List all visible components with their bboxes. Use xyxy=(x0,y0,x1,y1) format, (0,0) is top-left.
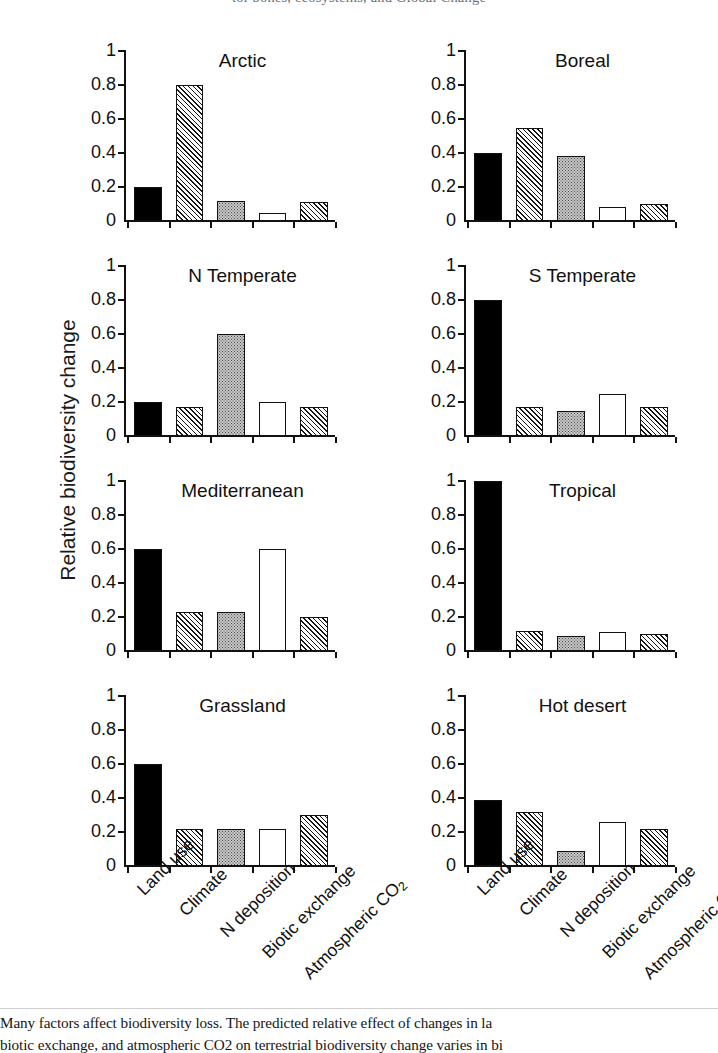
y-tick-label: 0.6 xyxy=(404,324,456,342)
x-tick-mark xyxy=(210,437,212,443)
bar xyxy=(516,407,543,436)
y-tick-label: 0.8 xyxy=(64,75,116,93)
bar xyxy=(134,764,161,866)
y-tick-label: 0.2 xyxy=(404,607,456,625)
y-tick-label: 0.2 xyxy=(64,392,116,410)
y-tick-label: 0.2 xyxy=(64,822,116,840)
y-tick-label: 0.6 xyxy=(64,754,116,772)
plot-area xyxy=(125,266,333,436)
bar xyxy=(300,407,327,436)
y-tick-label: 0.6 xyxy=(404,754,456,772)
bar xyxy=(300,202,327,221)
bar xyxy=(176,407,203,436)
plot-area xyxy=(125,51,333,221)
bar xyxy=(176,85,203,221)
y-tick-label: 0.2 xyxy=(404,822,456,840)
x-tick-mark xyxy=(592,652,594,658)
x-tick-mark xyxy=(169,437,171,443)
y-tick-label: 0.8 xyxy=(404,720,456,738)
bar xyxy=(259,213,286,222)
bar xyxy=(640,634,667,651)
y-tick-label: 0.4 xyxy=(404,788,456,806)
x-tick-mark xyxy=(252,652,254,658)
x-axis-category-labels: Land useClimateN depositionBiotic exchan… xyxy=(0,879,718,999)
y-tick-label: 1 xyxy=(404,471,456,489)
y-tick-label: 0.8 xyxy=(404,290,456,308)
x-tick-mark xyxy=(127,222,129,228)
y-tick-label: 0.4 xyxy=(404,358,456,376)
y-tick-label: 0 xyxy=(64,211,116,229)
bar xyxy=(599,207,626,221)
bar xyxy=(300,617,327,651)
y-tick-label: 0.2 xyxy=(64,607,116,625)
panel-mediterranean: 00.20.40.60.81Mediterranean xyxy=(40,454,340,669)
y-tick-label: 0.4 xyxy=(64,358,116,376)
x-tick-mark xyxy=(550,437,552,443)
figure-caption: Many factors affect biodiversity loss. T… xyxy=(0,1008,718,1053)
panel-arctic: 00.20.40.60.81Arctic xyxy=(40,24,340,239)
y-tick-label: 1 xyxy=(404,256,456,274)
plot-area xyxy=(465,266,673,436)
bar xyxy=(134,549,161,651)
bar xyxy=(217,334,244,436)
bar xyxy=(259,549,286,651)
y-tick-label: 0.6 xyxy=(64,109,116,127)
y-tick-label: 1 xyxy=(64,686,116,704)
y-tick-label: 0 xyxy=(64,856,116,874)
panel-tropical: 00.20.40.60.81Tropical xyxy=(380,454,680,669)
x-tick-mark xyxy=(550,652,552,658)
x-tick-mark xyxy=(293,222,295,228)
x-tick-mark xyxy=(509,437,511,443)
caption-line-1: Many factors affect biodiversity loss. T… xyxy=(0,1012,718,1034)
x-tick-mark xyxy=(127,437,129,443)
bar xyxy=(474,300,501,436)
panel-n-temperate: 00.20.40.60.81N Temperate xyxy=(40,239,340,454)
y-tick-label: 0 xyxy=(64,426,116,444)
x-tick-mark xyxy=(633,437,635,443)
y-tick-label: 0 xyxy=(404,856,456,874)
y-tick-label: 0.2 xyxy=(64,177,116,195)
x-tick-mark xyxy=(169,652,171,658)
clipped-header-text: tor bones, ecosystems, and Global Change xyxy=(0,0,718,14)
x-tick-mark xyxy=(252,222,254,228)
x-tick-mark xyxy=(633,222,635,228)
x-tick-mark xyxy=(210,222,212,228)
x-tick-mark xyxy=(335,222,337,228)
bar xyxy=(474,481,501,651)
x-tick-mark xyxy=(675,222,677,228)
x-tick-mark xyxy=(293,437,295,443)
plot-area xyxy=(465,51,673,221)
y-tick-label: 0.4 xyxy=(64,788,116,806)
y-tick-label: 0 xyxy=(64,641,116,659)
y-tick-label: 0.4 xyxy=(64,573,116,591)
y-tick-label: 0.8 xyxy=(64,290,116,308)
x-tick-mark xyxy=(127,652,129,658)
y-tick-label: 0 xyxy=(404,641,456,659)
bar xyxy=(557,156,584,221)
bar xyxy=(176,612,203,651)
y-tick-label: 0.8 xyxy=(404,75,456,93)
bar xyxy=(134,402,161,436)
plot-area xyxy=(125,696,333,866)
bar xyxy=(217,829,244,866)
y-tick-label: 0.6 xyxy=(404,539,456,557)
bar xyxy=(557,411,584,437)
bar xyxy=(640,407,667,436)
y-tick-label: 0.6 xyxy=(64,324,116,342)
caption-line-2: biotic exchange, and atmospheric CO2 on … xyxy=(0,1034,718,1053)
bar xyxy=(557,636,584,651)
bar xyxy=(474,153,501,221)
bar xyxy=(300,815,327,866)
y-tick-label: 0.4 xyxy=(64,143,116,161)
y-tick-label: 1 xyxy=(64,256,116,274)
x-tick-mark xyxy=(169,222,171,228)
bar xyxy=(217,201,244,221)
x-tick-mark xyxy=(592,437,594,443)
caption-divider xyxy=(0,1008,718,1009)
x-tick-mark xyxy=(467,867,469,873)
panel-s-temperate: 00.20.40.60.81S Temperate xyxy=(380,239,680,454)
x-tick-mark xyxy=(467,222,469,228)
y-tick-label: 0.4 xyxy=(404,573,456,591)
y-tick-label: 0.6 xyxy=(64,539,116,557)
x-tick-mark xyxy=(509,652,511,658)
